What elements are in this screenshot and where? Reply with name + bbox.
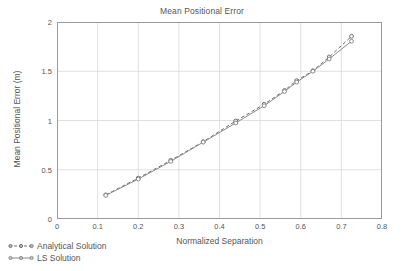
- x-tick-label: 0.4: [214, 222, 224, 231]
- x-tick-label: 0.7: [336, 222, 346, 231]
- data-point-marker: [327, 57, 331, 61]
- y-tick-label: 1.5: [30, 67, 52, 76]
- data-point-marker: [350, 34, 354, 38]
- y-tick-label: 1: [30, 116, 52, 125]
- x-tick-label: 0: [55, 222, 59, 231]
- series-line-analytical: [106, 36, 352, 195]
- data-point-marker: [262, 104, 266, 108]
- data-point-marker: [136, 177, 140, 181]
- data-point-marker: [104, 193, 108, 197]
- legend-item-ls[interactable]: LS Solution: [8, 252, 106, 264]
- legend-key-ls-icon: [8, 253, 34, 263]
- plot-area: [57, 22, 382, 219]
- y-tick-label: 0: [30, 215, 52, 224]
- y-tick-label: 0.5: [30, 165, 52, 174]
- x-tick-label: 0.3: [174, 222, 184, 231]
- data-point-marker: [295, 80, 299, 84]
- x-tick-label: 0.6: [296, 222, 306, 231]
- figure: Mean Positional Error Mean Positional Er…: [0, 0, 404, 271]
- series-line-ls: [106, 41, 352, 195]
- legend-item-analytical[interactable]: Analytical Solution: [8, 240, 106, 252]
- data-point-marker: [169, 159, 173, 163]
- chart-title: Mean Positional Error: [0, 6, 404, 16]
- legend-label-ls: LS Solution: [37, 253, 80, 263]
- data-point-marker: [234, 121, 238, 125]
- plot-svg: [57, 22, 382, 219]
- x-tick-label: 0.1: [92, 222, 102, 231]
- data-point-marker: [201, 140, 205, 144]
- y-axis-label: Mean Positional Error (m): [12, 44, 22, 194]
- legend: Analytical Solution LS Solution: [8, 240, 106, 264]
- x-tick-label: 0.8: [377, 222, 387, 231]
- x-tick-label: 0.2: [133, 222, 143, 231]
- y-tick-label: 2: [30, 18, 52, 27]
- data-point-marker: [350, 39, 354, 43]
- data-point-marker: [283, 90, 287, 94]
- legend-key-analytical-icon: [8, 241, 34, 251]
- data-point-marker: [311, 69, 315, 73]
- x-tick-label: 0.5: [255, 222, 265, 231]
- legend-label-analytical: Analytical Solution: [37, 241, 106, 251]
